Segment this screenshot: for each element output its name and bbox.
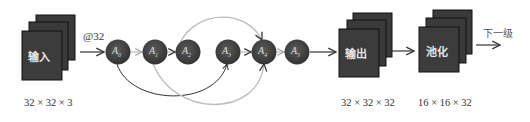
node-a0-label: A0 bbox=[112, 45, 121, 58]
edge-a1-a4-arc bbox=[153, 64, 264, 105]
pool-block bbox=[419, 10, 472, 72]
output-dims-label: 32 × 32 × 32 bbox=[341, 97, 395, 108]
node-a2-label: A2 bbox=[182, 45, 191, 58]
input-dims-label: 32 × 32 × 3 bbox=[24, 97, 73, 108]
node-a4-label: A4 bbox=[258, 45, 267, 58]
pool-block-label: 池化 bbox=[426, 43, 448, 59]
input-block-label: 输入 bbox=[28, 48, 50, 64]
edge-a0-a3-arc bbox=[117, 64, 227, 96]
node-a3-label: A3 bbox=[222, 45, 231, 58]
input-arrow-label: @32 bbox=[83, 30, 104, 42]
node-a1-label: A1 bbox=[149, 45, 158, 58]
next-stage-label: 下一级 bbox=[483, 25, 513, 40]
node-a5-label: A5 bbox=[291, 45, 300, 58]
pool-dims-label: 16 × 16 × 32 bbox=[418, 97, 472, 108]
output-block-label: 输出 bbox=[345, 45, 367, 61]
edge-a2-a4-arc bbox=[180, 17, 262, 43]
